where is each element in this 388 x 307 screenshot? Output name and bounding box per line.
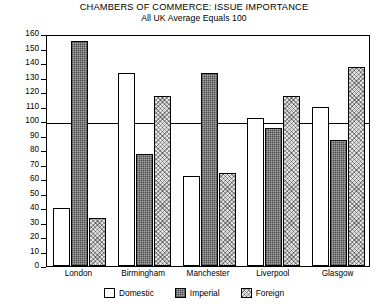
bar-group (247, 36, 300, 266)
plot-area (46, 35, 370, 267)
bar-liverpool-imperial[interactable] (265, 128, 282, 266)
chart-title: CHAMBERS OF COMMERCE: ISSUE IMPORTANCE (0, 2, 388, 13)
y-tick-label: 20 (30, 232, 39, 241)
bar-group (53, 36, 106, 266)
chart-title-block: CHAMBERS OF COMMERCE: ISSUE IMPORTANCE A… (0, 2, 388, 24)
y-tick-label: 50 (30, 189, 39, 198)
legend-label: Domestic (119, 288, 154, 298)
legend-swatch-foreign-icon (241, 288, 252, 298)
legend-swatch-domestic-icon (104, 288, 115, 298)
x-axis: LondonBirminghamManchesterLiverpoolGlasg… (46, 269, 370, 283)
bar-manchester-foreign[interactable] (219, 173, 236, 266)
legend-label: Imperial (190, 288, 220, 298)
bar-group (183, 36, 236, 266)
y-tick-label: 10 (30, 247, 39, 256)
legend-item-domestic[interactable]: Domestic (104, 288, 154, 298)
chart-subtitle: All UK Average Equals 100 (0, 13, 388, 24)
bar-liverpool-foreign[interactable] (283, 96, 300, 266)
y-tick-label: 150 (25, 44, 39, 53)
legend-item-imperial[interactable]: Imperial (175, 288, 220, 298)
x-axis-label-manchester: Manchester (176, 269, 241, 278)
y-tick-label: 110 (26, 102, 39, 111)
bar-group (118, 36, 171, 266)
bar-manchester-domestic[interactable] (183, 176, 200, 266)
y-tick-label: 30 (30, 218, 39, 227)
y-tick-label: 80 (30, 145, 39, 154)
bar-group (312, 36, 365, 266)
y-tick-label: 120 (25, 87, 39, 96)
x-axis-label-london: London (46, 269, 111, 278)
bar-birmingham-domestic[interactable] (118, 73, 135, 266)
y-tick-label: 70 (30, 160, 39, 169)
bar-london-domestic[interactable] (53, 208, 70, 266)
y-tick-label: 60 (30, 174, 39, 183)
legend-label: Foreign (256, 288, 284, 298)
bar-london-foreign[interactable] (89, 218, 106, 266)
bar-birmingham-foreign[interactable] (154, 96, 171, 266)
y-tick-label: 100 (25, 116, 39, 125)
y-tick-mark (41, 267, 46, 268)
chart-legend: DomesticImperialForeign (0, 288, 388, 298)
y-axis: 1601501401301201101009080706050403020100 (0, 35, 46, 267)
legend-item-foreign[interactable]: Foreign (241, 288, 284, 298)
bar-london-imperial[interactable] (71, 41, 88, 266)
bar-glasgow-imperial[interactable] (330, 140, 347, 266)
y-tick-label: 140 (25, 58, 39, 67)
bar-birmingham-imperial[interactable] (136, 154, 153, 266)
bar-liverpool-domestic[interactable] (247, 118, 264, 266)
y-tick-label: 40 (30, 203, 39, 212)
bar-glasgow-domestic[interactable] (312, 107, 329, 267)
x-axis-label-birmingham: Birmingham (111, 269, 176, 278)
y-tick-label: 160 (25, 29, 39, 38)
bar-manchester-imperial[interactable] (201, 73, 218, 266)
x-axis-label-liverpool: Liverpool (240, 269, 305, 278)
y-tick-label: 130 (25, 73, 39, 82)
legend-swatch-imperial-icon (175, 288, 186, 298)
bar-glasgow-foreign[interactable] (348, 67, 365, 266)
y-tick-label: 0 (34, 261, 39, 270)
x-axis-label-glasgow: Glasgow (305, 269, 370, 278)
plot-inner (47, 36, 369, 266)
y-tick-label: 90 (30, 131, 39, 140)
